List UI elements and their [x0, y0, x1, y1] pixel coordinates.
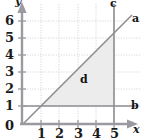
x-axis-label: x	[133, 124, 140, 135]
region-d-label: d	[80, 74, 88, 85]
x-tick-label-3: 3	[74, 127, 83, 140]
y-tick-label-4: 4	[5, 48, 14, 61]
x-tick-label-5: 5	[110, 127, 119, 140]
coordinate-plane-figure: 6 5 4 3 2 1 0 1 2 3 4 5 x y a b c d	[0, 0, 145, 140]
y-tick-label-2: 2	[5, 82, 14, 95]
x-tick-label-4: 4	[92, 127, 101, 140]
y-tick-label-6: 6	[5, 14, 14, 27]
line-a-label: a	[132, 13, 139, 24]
y-tick-label-5: 5	[5, 31, 14, 44]
plot-svg	[0, 0, 145, 140]
y-tick-label-1: 1	[5, 99, 14, 112]
y-axis-label: y	[15, 0, 21, 7]
origin-label: 0	[5, 119, 14, 132]
line-b-label: b	[131, 100, 139, 111]
x-tick-label-1: 1	[37, 127, 46, 140]
line-c-label: c	[110, 0, 117, 9]
y-tick-label-3: 3	[5, 65, 14, 78]
line-a	[23, 15, 132, 124]
x-tick-label-2: 2	[55, 127, 64, 140]
